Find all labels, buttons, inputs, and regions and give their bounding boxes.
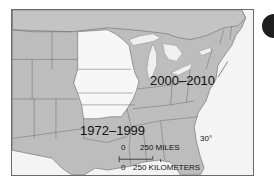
us-map [12,10,253,175]
circle-marker-icon [262,14,274,38]
scale-km-zero: 0 [121,164,125,172]
label-2000-2010: 2000–2010 [150,74,215,87]
map-frame [11,9,254,176]
latitude-30-label: 30° [200,135,212,143]
scale-miles-zero: 0 [121,144,125,152]
scale-miles-label: 250 MILES [140,144,180,152]
scale-km-label: 250 KILOMETERS [133,164,200,172]
label-1972-1999: 1972–1999 [80,124,145,137]
